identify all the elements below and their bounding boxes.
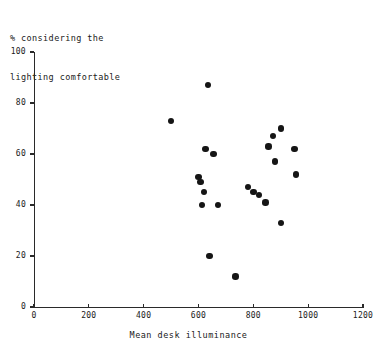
y-tick-mark bbox=[30, 255, 34, 256]
data-point bbox=[197, 179, 203, 185]
x-tick-label: 1200 bbox=[343, 311, 377, 320]
x-tick-mark bbox=[143, 304, 144, 308]
x-tick-mark bbox=[362, 304, 363, 308]
y-tick-mark bbox=[30, 153, 34, 154]
data-point bbox=[201, 189, 207, 195]
y-tick-label: 80 bbox=[2, 98, 26, 107]
data-point bbox=[206, 253, 212, 259]
data-point bbox=[272, 158, 278, 164]
y-tick-label: 0 bbox=[2, 302, 26, 311]
y-axis-title-line-2: lighting comfortable bbox=[10, 71, 120, 84]
x-tick-label: 0 bbox=[14, 311, 54, 320]
data-point bbox=[205, 82, 211, 88]
x-tick-label: 1000 bbox=[288, 311, 328, 320]
data-point bbox=[215, 202, 221, 208]
y-tick-label: 60 bbox=[2, 149, 26, 158]
y-tick-label: 40 bbox=[2, 200, 26, 209]
data-point bbox=[168, 118, 174, 124]
data-point bbox=[278, 125, 284, 131]
x-tick-label: 400 bbox=[124, 311, 164, 320]
x-tick-mark bbox=[253, 304, 254, 308]
data-point bbox=[199, 202, 205, 208]
y-axis-title-line-1: % considering the bbox=[10, 32, 120, 45]
data-point bbox=[210, 151, 216, 157]
data-point bbox=[291, 146, 297, 152]
y-axis-line bbox=[34, 52, 35, 308]
data-point bbox=[256, 192, 262, 198]
x-tick-label: 200 bbox=[69, 311, 109, 320]
scatter-plot: % considering the lighting comfortable 0… bbox=[0, 0, 377, 350]
x-tick-mark bbox=[88, 304, 89, 308]
y-tick-mark bbox=[30, 204, 34, 205]
data-point bbox=[262, 199, 268, 205]
y-tick-label: 100 bbox=[2, 47, 26, 56]
x-tick-mark bbox=[33, 304, 34, 308]
x-axis-title: Mean desk illuminance bbox=[0, 330, 377, 340]
data-point bbox=[202, 146, 208, 152]
data-point bbox=[293, 171, 299, 177]
x-tick-mark bbox=[308, 304, 309, 308]
y-tick-label: 20 bbox=[2, 251, 26, 260]
data-point bbox=[270, 133, 276, 139]
y-tick-mark bbox=[30, 102, 34, 103]
x-tick-mark bbox=[198, 304, 199, 308]
data-point bbox=[232, 273, 238, 279]
y-tick-mark bbox=[30, 51, 34, 52]
x-tick-label: 600 bbox=[179, 311, 219, 320]
data-point bbox=[265, 143, 271, 149]
data-point bbox=[278, 220, 284, 226]
x-tick-label: 800 bbox=[233, 311, 273, 320]
y-axis-title: % considering the lighting comfortable bbox=[10, 6, 120, 110]
